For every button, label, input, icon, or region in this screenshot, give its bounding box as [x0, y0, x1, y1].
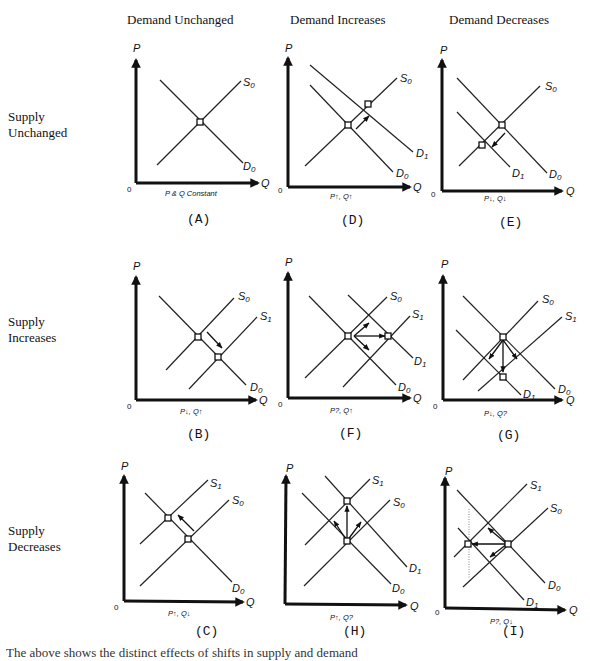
- shift-arrow: [492, 133, 505, 147]
- curve-label-d1: D1: [416, 147, 428, 161]
- outcome-note: P?, Q↑: [330, 406, 353, 415]
- origin-label: 0: [278, 186, 283, 195]
- equilibrium-point-new: [500, 374, 506, 380]
- shift-arrow: [356, 116, 369, 129]
- outcome-note: P↑, Q↑: [330, 192, 353, 201]
- curve-label-d1: D1: [409, 562, 421, 576]
- equilibrium-point-new: [344, 498, 350, 504]
- supply-curve-s1: [189, 317, 257, 389]
- curve-label-d1: D1: [512, 167, 524, 181]
- shift-arrow-supply: [354, 336, 369, 350]
- x-axis-label: Q: [413, 181, 422, 193]
- curve-label-d1: D1: [414, 355, 426, 369]
- outcome-note: P↑, Q↓: [168, 609, 191, 618]
- curve-label-d0: D0: [548, 579, 561, 593]
- shift-arrow: [207, 332, 222, 348]
- panel-i: P Q 0 P?, Q↓ S1 S0 D0 D1: [435, 465, 578, 626]
- origin-label: 0: [127, 185, 132, 194]
- equilibrium-point-initial: [195, 334, 201, 340]
- equilibrium-point-initial: [505, 541, 511, 547]
- supply-curve-s1: [305, 479, 370, 545]
- outcome-note: P↑, Q?: [330, 613, 354, 622]
- curve-label-s1: S1: [372, 474, 384, 488]
- curve-label-s1: S1: [530, 479, 542, 493]
- equilibrium-point-new: [365, 101, 371, 107]
- curve-label-d0: D0: [549, 168, 562, 182]
- curve-label-d0: D0: [232, 582, 245, 596]
- curve-label-s0: S0: [390, 290, 402, 304]
- panel-e: P Q 0 P↓, Q↓ S0 D1 D0: [431, 44, 575, 203]
- curve-label-s0: S0: [550, 502, 562, 516]
- x-axis-label: Q: [261, 177, 270, 189]
- equilibrium-point: [197, 119, 203, 125]
- equilibrium-point-new: [385, 333, 391, 339]
- x-axis-label: Q: [413, 392, 422, 404]
- curve-label-s1: S1: [260, 310, 272, 324]
- x-axis: [124, 601, 243, 602]
- curve-label-d0: D0: [392, 582, 405, 596]
- demand-curve-d0: [159, 296, 246, 385]
- origin-label: 0: [127, 402, 132, 411]
- y-axis-label: P: [440, 44, 448, 56]
- panel-a: P Q 0 P & Q Constant S0 D0: [127, 42, 270, 198]
- equilibrium-point-new: [465, 541, 471, 547]
- y-axis-label: P: [441, 258, 449, 270]
- curve-label-d0: D0: [250, 381, 263, 395]
- outcome-note: P?, Q↓: [490, 617, 513, 626]
- y-axis: [285, 476, 286, 604]
- demand-curve-d0: [457, 490, 545, 583]
- equilibrium-point-new: [215, 354, 221, 360]
- y-axis-label: P: [121, 460, 129, 472]
- curve-label-s0: S0: [545, 80, 557, 94]
- curve-label-s0: S0: [400, 72, 412, 86]
- origin-label: 0: [278, 400, 283, 409]
- curve-label-d0: D0: [243, 160, 256, 174]
- origin-label: 0: [433, 402, 438, 411]
- y-axis-label: P: [286, 462, 294, 474]
- x-axis-label: Q: [566, 185, 575, 197]
- demand-curve-d0: [309, 296, 396, 385]
- outcome-note: P & Q Constant: [165, 189, 218, 198]
- y-axis-label: P: [285, 256, 293, 268]
- curve-label-s0: S0: [393, 496, 405, 510]
- curve-label-d0: D0: [558, 383, 571, 397]
- equilibrium-point-initial: [345, 333, 351, 339]
- equilibrium-point-new: [165, 515, 171, 521]
- shift-arrow-demand: [354, 323, 369, 336]
- curve-label-s1: S1: [412, 308, 424, 322]
- x-axis: [445, 608, 565, 610]
- panel-d: P Q 0 P↑, Q↑ S0 D1 D0: [278, 42, 428, 201]
- outcome-note: P↓, Q?: [484, 409, 508, 418]
- panel-h: P Q P↑, Q? S1 S0 D1 D0: [285, 462, 421, 622]
- demand-curve-d0: [463, 296, 555, 389]
- panel-b: P Q 0 P↓, Q↑ S0 S1 D0: [127, 260, 272, 416]
- x-axis-label: Q: [246, 596, 255, 608]
- curve-label-d1: D1: [523, 388, 535, 402]
- figure-caption-partial: The above shows the distinct effects of …: [6, 645, 358, 661]
- y-axis-label: P: [133, 260, 141, 272]
- x-axis: [285, 604, 406, 605]
- equilibrium-point-initial: [500, 334, 506, 340]
- curve-label-s0: S0: [232, 494, 244, 508]
- curve-label-s1: S1: [565, 310, 577, 324]
- y-axis-label: P: [445, 465, 453, 477]
- curve-label-s1: S1: [210, 477, 222, 491]
- x-axis-label: Q: [259, 394, 268, 406]
- shift-arrow-supply: [488, 528, 507, 544]
- curve-label-s0: S0: [238, 290, 250, 304]
- equilibrium-point-initial: [185, 536, 191, 542]
- outcome-note: P↓, Q↓: [484, 194, 507, 203]
- curve-label-s0: S0: [243, 76, 255, 90]
- equilibrium-point-initial: [345, 122, 351, 128]
- origin-label: 0: [114, 603, 119, 612]
- x-axis-label: Q: [569, 604, 578, 616]
- supply-curve-s0: [140, 500, 229, 586]
- curve-label-d0: D0: [396, 167, 409, 181]
- curve-label-s0: S0: [542, 293, 554, 307]
- origin-label: 0: [431, 190, 436, 199]
- supply-curve-s1: [140, 480, 208, 544]
- origin-label: 0: [435, 608, 440, 617]
- panel-c: P Q 0 P↑, Q↓ S1 S0 D0: [114, 460, 255, 618]
- curve-label-d1: D1: [526, 596, 538, 610]
